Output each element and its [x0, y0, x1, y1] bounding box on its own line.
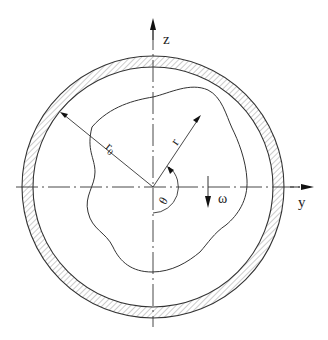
rotation-label: ω	[218, 191, 227, 206]
z-axis-label: z	[163, 31, 170, 47]
y-axis-label: y	[298, 194, 306, 210]
pipe-cross-section-diagram: r0 r θ ω z y	[0, 0, 328, 340]
